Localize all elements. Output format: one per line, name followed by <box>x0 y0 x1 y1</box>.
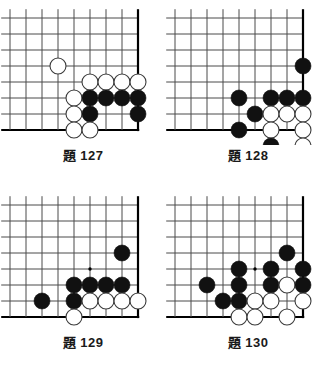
caption-number: 130 <box>245 335 268 350</box>
black-stone[interactable] <box>130 106 146 122</box>
black-stone[interactable] <box>263 138 279 145</box>
black-stone[interactable] <box>295 261 311 277</box>
black-stone[interactable] <box>231 122 247 138</box>
black-stone[interactable] <box>114 277 130 293</box>
white-stone[interactable] <box>295 293 311 309</box>
black-stone[interactable] <box>34 293 50 309</box>
problem-128: 題 128 <box>165 0 331 186</box>
white-stone[interactable] <box>247 309 263 325</box>
white-stone[interactable] <box>98 293 114 309</box>
black-stone[interactable] <box>82 106 98 122</box>
caption-number: 128 <box>245 148 268 163</box>
black-stone[interactable] <box>130 90 146 106</box>
caption-ti-character: 題 <box>63 335 77 350</box>
problem-127: 題 127 <box>0 0 166 186</box>
black-stone[interactable] <box>279 90 295 106</box>
problem-128-caption: 題 128 <box>165 148 331 164</box>
caption-number: 129 <box>80 335 103 350</box>
black-stone[interactable] <box>231 277 247 293</box>
problem-129: 題 129 <box>0 187 166 373</box>
black-stone[interactable] <box>231 261 247 277</box>
white-stone[interactable] <box>130 74 146 90</box>
star-point <box>88 267 91 270</box>
white-stone[interactable] <box>263 106 279 122</box>
white-stone[interactable] <box>82 74 98 90</box>
black-stone[interactable] <box>263 261 279 277</box>
black-stone[interactable] <box>263 277 279 293</box>
white-stone[interactable] <box>231 309 247 325</box>
caption-ti-character: 題 <box>63 148 77 163</box>
white-stone[interactable] <box>66 106 82 122</box>
white-stone[interactable] <box>114 293 130 309</box>
black-stone[interactable] <box>247 106 263 122</box>
black-stone[interactable] <box>66 293 82 309</box>
black-stone[interactable] <box>199 277 215 293</box>
problem-129-board[interactable] <box>0 187 166 332</box>
problem-128-board[interactable] <box>165 0 331 145</box>
black-stone[interactable] <box>215 293 231 309</box>
black-stone[interactable] <box>295 58 311 74</box>
white-stone[interactable] <box>263 122 279 138</box>
white-stone[interactable] <box>50 58 66 74</box>
problem-127-caption: 題 127 <box>0 148 166 164</box>
star-point <box>253 267 256 270</box>
white-stone[interactable] <box>130 293 146 309</box>
white-stone[interactable] <box>295 122 311 138</box>
white-stone[interactable] <box>66 90 82 106</box>
black-stone[interactable] <box>82 90 98 106</box>
white-stone[interactable] <box>98 74 114 90</box>
problem-130: 題 130 <box>165 187 331 373</box>
white-stone[interactable] <box>66 309 82 325</box>
problem-129-caption: 題 129 <box>0 335 166 351</box>
black-stone[interactable] <box>82 277 98 293</box>
black-stone[interactable] <box>98 277 114 293</box>
black-stone[interactable] <box>114 245 130 261</box>
white-stone[interactable] <box>279 277 295 293</box>
caption-ti-character: 題 <box>228 148 242 163</box>
black-stone[interactable] <box>98 90 114 106</box>
black-stone[interactable] <box>231 90 247 106</box>
problem-130-board[interactable] <box>165 187 331 332</box>
problem-127-board[interactable] <box>0 0 166 145</box>
problem-129-goban <box>0 187 166 332</box>
white-stone[interactable] <box>279 309 295 325</box>
black-stone[interactable] <box>114 90 130 106</box>
problem-130-goban <box>165 187 331 332</box>
white-stone[interactable] <box>295 138 311 145</box>
black-stone[interactable] <box>66 277 82 293</box>
problem-127-goban <box>0 0 166 145</box>
white-stone[interactable] <box>114 74 130 90</box>
black-stone[interactable] <box>295 277 311 293</box>
white-stone[interactable] <box>82 293 98 309</box>
white-stone[interactable] <box>295 106 311 122</box>
problem-130-caption: 題 130 <box>165 335 331 351</box>
white-stone[interactable] <box>263 293 279 309</box>
white-stone[interactable] <box>66 122 82 138</box>
black-stone[interactable] <box>295 90 311 106</box>
white-stone[interactable] <box>247 293 263 309</box>
white-stone[interactable] <box>82 122 98 138</box>
problem-128-goban <box>165 0 331 145</box>
problem-sheet: 題 127題 128題 129題 130 <box>0 0 331 373</box>
caption-number: 127 <box>80 148 103 163</box>
black-stone[interactable] <box>263 90 279 106</box>
black-stone[interactable] <box>231 293 247 309</box>
caption-ti-character: 題 <box>228 335 242 350</box>
white-stone[interactable] <box>279 106 295 122</box>
black-stone[interactable] <box>279 245 295 261</box>
